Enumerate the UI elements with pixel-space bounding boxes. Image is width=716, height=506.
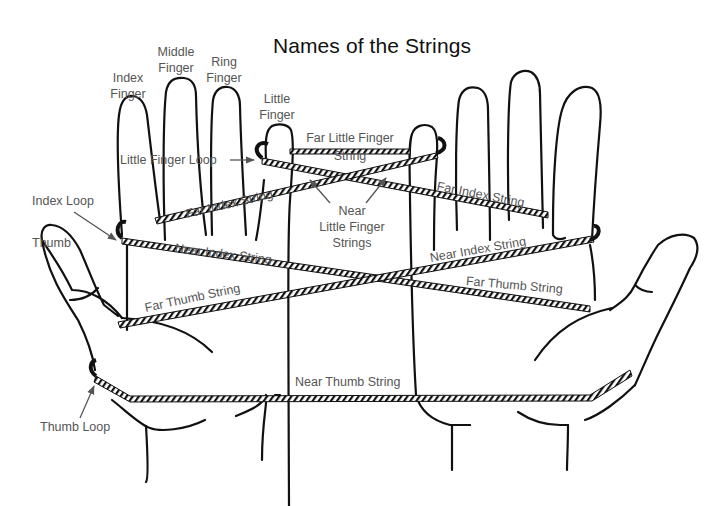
- diagram-title: Names of the Strings: [0, 34, 716, 58]
- label-thumb: Thumb: [32, 235, 71, 251]
- label-index-finger: Index Finger: [108, 70, 148, 102]
- label-near-thumb-string: Near Thumb String: [295, 374, 400, 390]
- label-line: Little: [256, 91, 298, 107]
- label-little-finger-loop: Little Finger Loop: [120, 152, 217, 168]
- label-line: Index: [108, 70, 148, 86]
- label-line: Far Little Finger: [300, 130, 400, 146]
- string-figure-diagram: Names of the Strings Index Finger Middle…: [0, 0, 716, 506]
- label-line: Finger: [108, 86, 148, 102]
- label-near-little-finger-strings: Near Little Finger Strings: [312, 203, 392, 251]
- label-little-finger: Little Finger: [256, 91, 298, 123]
- label-line: Little Finger: [312, 219, 392, 235]
- right-ring-finger: [456, 87, 490, 240]
- label-far-little-finger-string: Far Little Finger String: [300, 130, 400, 164]
- arrow-thumb-loop: [80, 386, 94, 418]
- label-line: Finger: [204, 70, 244, 86]
- left-little-finger: [266, 124, 293, 506]
- right-index-finger: [553, 87, 601, 240]
- left-hand: [42, 78, 293, 506]
- right-hand: [410, 71, 698, 470]
- strings: [91, 138, 632, 402]
- label-line: Middle: [154, 44, 198, 60]
- label-line: Ring: [204, 54, 244, 70]
- label-index-loop: Index Loop: [32, 193, 94, 209]
- label-middle-finger: Middle Finger: [154, 44, 198, 76]
- label-ring-finger: Ring Finger: [204, 54, 244, 86]
- label-thumb-loop: Thumb Loop: [40, 419, 110, 435]
- arrow-index-loop: [74, 212, 116, 240]
- label-line: Finger: [154, 60, 198, 76]
- label-line: String: [300, 148, 400, 164]
- label-line: Finger: [256, 107, 298, 123]
- label-line: Strings: [312, 235, 392, 251]
- right-thumb: [610, 235, 697, 385]
- label-line: Near: [312, 203, 392, 219]
